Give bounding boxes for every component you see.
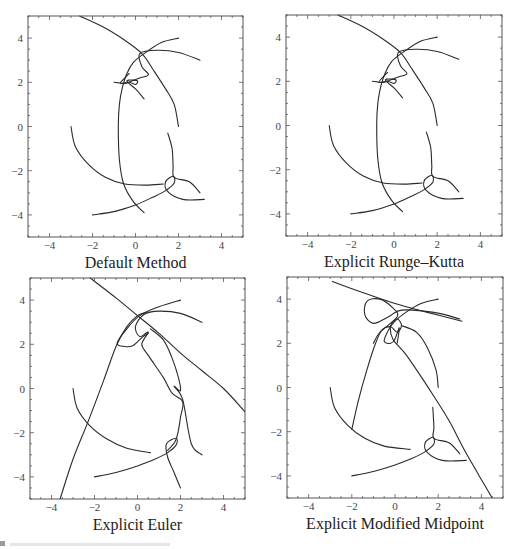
y-tick-label: −4 bbox=[269, 208, 281, 220]
x-tick-label: −4 bbox=[302, 238, 314, 250]
trajectories bbox=[71, 16, 204, 215]
trajectory-body-4 bbox=[60, 312, 146, 499]
x-tick-label: 0 bbox=[391, 238, 397, 250]
x-tick-label: 4 bbox=[221, 501, 227, 513]
x-tick-label: 0 bbox=[392, 500, 398, 512]
x-tick-label: −4 bbox=[46, 501, 58, 513]
x-tick-label: −2 bbox=[346, 500, 358, 512]
y-tick-label: −4 bbox=[270, 470, 282, 482]
x-tick-label: −2 bbox=[89, 501, 101, 513]
y-tick-label: −4 bbox=[13, 471, 25, 483]
chart-title: Default Method bbox=[85, 254, 187, 271]
trajectory-body-1 bbox=[80, 16, 179, 127]
x-tick-label: −2 bbox=[87, 239, 99, 251]
chart-panel-1: −4−2024−4−2024Explicit Runge–Kutta bbox=[269, 15, 502, 271]
y-tick-label: 4 bbox=[276, 31, 282, 43]
x-tick-label: −2 bbox=[345, 238, 357, 250]
trajectory-body-8 bbox=[433, 407, 460, 453]
trajectory-body-1 bbox=[90, 278, 245, 412]
x-tick-label: 4 bbox=[479, 500, 485, 512]
y-tick-label: 2 bbox=[18, 76, 24, 88]
trajectories bbox=[60, 278, 245, 499]
y-tick-label: 0 bbox=[276, 120, 282, 132]
y-tick-label: −2 bbox=[270, 426, 282, 438]
x-tick-label: −4 bbox=[44, 239, 56, 251]
x-tick-label: 0 bbox=[133, 239, 139, 251]
trajectory-body-6 bbox=[150, 329, 202, 455]
trajectory-body-3 bbox=[351, 175, 463, 214]
chart-panel-0: −4−2024−4−2024Default Method bbox=[11, 16, 243, 271]
y-tick-label: −2 bbox=[13, 427, 25, 439]
y-tick-label: −2 bbox=[11, 165, 23, 177]
trajectory-body-5 bbox=[114, 50, 200, 83]
chart-panel-3: −4−2024−4−2024Explicit Modified Midpoint bbox=[270, 277, 503, 533]
trajectory-body-6 bbox=[168, 133, 200, 193]
trajectory-body-3 bbox=[95, 438, 181, 488]
y-tick-label: 4 bbox=[20, 294, 26, 306]
y-tick-label: 0 bbox=[18, 121, 24, 133]
y-tick-label: 4 bbox=[18, 32, 24, 44]
x-tick-label: 2 bbox=[178, 501, 184, 513]
panels: −4−2024−4−2024Default Method−4−2024−4−20… bbox=[11, 15, 503, 534]
y-tick-label: 2 bbox=[277, 337, 283, 349]
trajectories bbox=[329, 15, 463, 214]
chart-panel-2: −4−2024−4−2024Explicit Euler bbox=[13, 278, 245, 534]
x-tick-label: 2 bbox=[434, 238, 440, 250]
trajectory-body-2 bbox=[73, 389, 150, 453]
chart-title: Explicit Modified Midpoint bbox=[306, 515, 484, 533]
x-tick-label: 4 bbox=[478, 238, 484, 250]
trajectory-body-3 bbox=[93, 176, 205, 215]
trajectory-body-5 bbox=[372, 49, 458, 82]
x-tick-label: 0 bbox=[135, 501, 141, 513]
y-tick-label: 0 bbox=[20, 383, 26, 395]
trajectory-body-4 bbox=[377, 37, 438, 212]
figure-canvas: −4−2024−4−2024Default Method−4−2024−4−20… bbox=[0, 0, 517, 549]
trajectory-body-5 bbox=[135, 311, 202, 450]
y-tick-label: −2 bbox=[269, 164, 281, 176]
trajectory-body-1 bbox=[338, 15, 437, 126]
x-tick-label: 4 bbox=[219, 239, 225, 251]
x-tick-label: −4 bbox=[303, 500, 315, 512]
chart-title: Explicit Runge–Kutta bbox=[324, 253, 464, 271]
trajectory-body-6 bbox=[426, 132, 458, 192]
chart-title: Explicit Euler bbox=[93, 516, 183, 534]
trajectory-body-2 bbox=[329, 126, 422, 185]
y-tick-label: 0 bbox=[277, 382, 283, 394]
trajectory-body-2 bbox=[330, 388, 410, 450]
trajectories bbox=[330, 281, 492, 498]
y-tick-label: 4 bbox=[277, 293, 283, 305]
caption-marker-icon bbox=[0, 541, 5, 546]
trajectory-body-4 bbox=[118, 38, 178, 213]
x-tick-label: 2 bbox=[435, 500, 441, 512]
x-tick-label: 2 bbox=[176, 239, 182, 251]
y-tick-label: −4 bbox=[11, 209, 23, 221]
footer-caption bbox=[0, 541, 170, 546]
trajectory-body-2 bbox=[71, 127, 163, 186]
y-tick-label: 2 bbox=[20, 338, 26, 350]
y-tick-label: 2 bbox=[276, 75, 282, 87]
caption-text-cutoff bbox=[10, 543, 170, 546]
